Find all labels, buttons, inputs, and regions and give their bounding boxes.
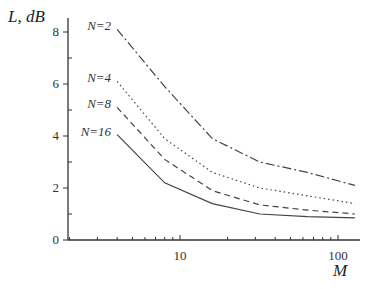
- y-tick-label: 0: [53, 232, 60, 247]
- x-tick-label: 10: [174, 248, 187, 263]
- x-axis-title: M: [332, 261, 348, 280]
- series-label: N=8: [86, 96, 111, 111]
- series-line-n-4: [117, 81, 355, 203]
- series-label: N=16: [80, 124, 112, 139]
- y-tick-label: 4: [53, 128, 60, 143]
- series-label: N=2: [86, 18, 111, 33]
- series-lines: [117, 29, 355, 218]
- y-tick-label: 6: [53, 76, 60, 91]
- series-labels: N=2N=4N=8N=16: [80, 18, 112, 138]
- y-axis-title: L, dB: [7, 7, 45, 26]
- y-tick-label: 2: [53, 180, 60, 195]
- y-tick-label: 8: [53, 24, 60, 39]
- series-label: N=4: [86, 70, 111, 85]
- series-line-n-2: [117, 29, 355, 185]
- axes: 0246810100: [53, 18, 361, 263]
- line-chart: 0246810100 N=2N=4N=8N=16 L, dB M: [0, 0, 368, 289]
